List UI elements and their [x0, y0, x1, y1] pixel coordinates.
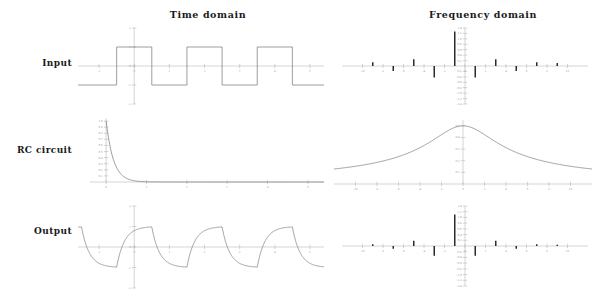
svg-text:1: 1	[129, 46, 131, 49]
svg-text:1: 1	[169, 70, 171, 73]
svg-text:-1.2: -1.2	[457, 98, 462, 101]
svg-text:-0.6: -0.6	[457, 81, 462, 84]
svg-text:0.6: 0.6	[457, 49, 461, 52]
svg-text:-6: -6	[402, 70, 405, 73]
svg-text:5: 5	[307, 186, 309, 189]
svg-text:-0.8: -0.8	[457, 268, 462, 271]
svg-text:0.1: 0.1	[99, 175, 103, 178]
svg-text:-4: -4	[423, 70, 426, 73]
svg-text:2: 2	[129, 27, 131, 30]
svg-text:0.8: 0.8	[99, 132, 103, 135]
svg-text:8: 8	[546, 250, 548, 253]
svg-text:-2: -2	[128, 103, 131, 106]
plot-input-frequency-domain: -10-8-6-4-20246810-1.4-1.2-1.0-0.8-0.6-0…	[340, 20, 590, 112]
svg-text:0.3: 0.3	[99, 163, 103, 166]
svg-text:0: 0	[462, 188, 464, 191]
svg-text:3: 3	[239, 251, 241, 254]
svg-text:5: 5	[309, 251, 311, 254]
svg-text:-4: -4	[419, 188, 422, 191]
svg-text:0: 0	[129, 246, 131, 249]
svg-text:0: 0	[105, 186, 107, 189]
svg-text:0.2: 0.2	[457, 60, 461, 63]
svg-text:6: 6	[526, 250, 528, 253]
svg-text:2: 2	[484, 188, 486, 191]
svg-text:1.2: 1.2	[457, 211, 461, 214]
svg-text:-0.8: -0.8	[457, 87, 462, 90]
svg-text:0.6: 0.6	[99, 144, 103, 147]
svg-text:0.6: 0.6	[457, 228, 461, 231]
column-title-frequency-domain: Frequency domain	[418, 9, 548, 20]
svg-text:3: 3	[239, 70, 241, 73]
svg-text:1: 1	[146, 186, 148, 189]
svg-text:6: 6	[526, 70, 528, 73]
svg-text:6: 6	[527, 188, 529, 191]
svg-text:-2: -2	[443, 70, 446, 73]
svg-text:-10: -10	[360, 70, 365, 73]
plot-svg-output-frequency: -10-8-6-4-20246810-1.4-1.2-1.0-0.8-0.6-0…	[340, 196, 590, 296]
svg-text:-0.4: -0.4	[457, 76, 462, 79]
svg-text:1.0: 1.0	[457, 38, 461, 41]
svg-text:1.4: 1.4	[457, 205, 461, 208]
svg-text:-4: -4	[423, 250, 426, 253]
svg-text:2: 2	[204, 70, 206, 73]
svg-text:0.7: 0.7	[99, 138, 103, 141]
svg-text:-1: -1	[128, 267, 131, 270]
svg-text:10: 10	[569, 188, 573, 191]
svg-text:8: 8	[548, 188, 550, 191]
svg-text:0.4: 0.4	[457, 234, 461, 237]
svg-text:0.4: 0.4	[455, 136, 459, 139]
svg-text:-6: -6	[397, 188, 400, 191]
svg-text:0.2: 0.2	[99, 169, 103, 172]
row-label-output: Output	[0, 226, 72, 236]
plot-rc-frequency-domain: -10-8-6-4-202468100.10.20.30.40.5	[332, 112, 594, 192]
svg-text:4: 4	[505, 70, 507, 73]
svg-text:0.2: 0.2	[457, 239, 461, 242]
svg-text:4: 4	[267, 186, 269, 189]
figure-canvas: Time domain Frequency domain Input RC ci…	[0, 0, 602, 303]
column-title-time-domain: Time domain	[148, 9, 268, 20]
svg-text:1: 1	[129, 226, 131, 229]
plot-input-time-domain: -1012345-2-1012	[76, 20, 326, 112]
svg-text:1.0: 1.0	[457, 216, 461, 219]
svg-text:-2: -2	[128, 287, 131, 290]
svg-text:1: 1	[169, 251, 171, 254]
plot-output-frequency-domain: -10-8-6-4-20246810-1.4-1.2-1.0-0.8-0.6-0…	[340, 196, 590, 296]
plot-rc-time-domain: 0123450.10.20.30.40.50.60.70.80.91.0	[88, 112, 326, 192]
svg-text:2: 2	[485, 70, 487, 73]
svg-text:-10: -10	[360, 250, 365, 253]
svg-text:-0.2: -0.2	[457, 70, 462, 73]
svg-text:0.9: 0.9	[99, 126, 103, 129]
svg-text:8: 8	[546, 70, 548, 73]
svg-text:0.3: 0.3	[455, 148, 459, 151]
svg-text:4: 4	[505, 188, 507, 191]
svg-text:4: 4	[274, 70, 276, 73]
svg-text:0: 0	[129, 65, 131, 68]
svg-text:2: 2	[485, 250, 487, 253]
svg-text:-1.4: -1.4	[457, 103, 462, 106]
row-label-input: Input	[0, 58, 72, 68]
plot-svg-rc-time: 0123450.10.20.30.40.50.60.70.80.91.0	[88, 112, 326, 192]
svg-text:-2: -2	[443, 250, 446, 253]
svg-text:5: 5	[309, 70, 311, 73]
svg-text:0.5: 0.5	[99, 151, 103, 154]
svg-text:-1.2: -1.2	[457, 279, 462, 282]
svg-text:0.4: 0.4	[99, 157, 103, 160]
row-label-rc-circuit: RC circuit	[0, 145, 72, 155]
svg-text:0.2: 0.2	[455, 160, 459, 163]
svg-text:-8: -8	[382, 250, 385, 253]
svg-text:10: 10	[566, 250, 570, 253]
svg-text:0.8: 0.8	[457, 43, 461, 46]
svg-text:-1.4: -1.4	[457, 285, 462, 288]
svg-text:0: 0	[133, 251, 135, 254]
svg-text:-0.6: -0.6	[457, 262, 462, 265]
svg-text:0: 0	[133, 70, 135, 73]
svg-text:-10: -10	[353, 188, 358, 191]
svg-text:-8: -8	[376, 188, 379, 191]
svg-text:-0.4: -0.4	[457, 256, 462, 259]
svg-text:0.8: 0.8	[457, 222, 461, 225]
svg-text:2: 2	[204, 251, 206, 254]
plot-svg-output-time: -1012345-2-1012	[76, 196, 326, 296]
svg-text:-0.2: -0.2	[457, 251, 462, 254]
plot-svg-rc-frequency: -10-8-6-4-202468100.10.20.30.40.5	[332, 112, 594, 192]
svg-text:-6: -6	[402, 250, 405, 253]
